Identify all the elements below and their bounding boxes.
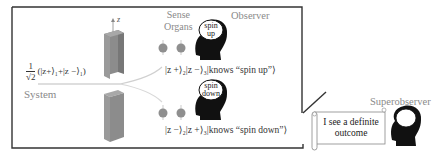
beam-down [120,84,162,102]
thought-up-line2: up [200,30,222,38]
thought-down-line2: down [200,90,222,98]
lower-magnet-icon [104,90,124,142]
beam-up [120,67,162,84]
sense-organs-up-icon [159,40,186,55]
fraction: 1 √2 [26,61,35,82]
superobserver-head-icon [391,106,421,146]
thought-spin-down: spin down [200,82,222,98]
branch-state-up: |z +⟩₂|z −⟩₃|knows “spin up”⟩ [165,64,276,75]
superobserver-label: Superobserver [370,96,431,107]
observer-label: Observer [231,10,269,21]
sense-organs-label-line2: Organs [164,21,193,33]
connector-line [303,92,326,113]
system-state-body: (|z+⟩₁+|z −⟩₁) [37,66,85,76]
upper-magnet-icon [104,30,124,79]
system-state-equation: 1 √2 (|z+⟩₁+|z −⟩₁) [26,61,86,82]
branch-state-down: |z −⟩₂|z +⟩₃|knows “spin down”⟩ [165,124,287,135]
z-axis-label: z [117,15,120,24]
thought-spin-up: spin up [200,22,222,38]
fraction-numerator: 1 [26,61,35,72]
scroll-line2: outcome [317,128,385,139]
system-label: System [24,88,56,100]
sense-organs-label-line1: Sense [164,9,193,21]
sense-organs-label: Sense Organs [164,9,193,33]
z-axis-arrow-icon [111,18,115,32]
fraction-denominator: √2 [26,72,35,82]
scroll-line1: I see a definite [317,117,385,128]
scroll-message: I see a definite outcome [317,117,385,139]
sense-organs-down-icon [159,105,186,120]
